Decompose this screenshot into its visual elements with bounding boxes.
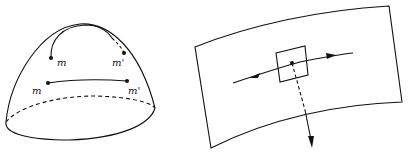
tangent-point [290, 61, 294, 65]
arrow-down-icon [308, 136, 314, 148]
dome-base-back [6, 96, 155, 122]
point-m-upper [49, 56, 53, 60]
point-m-lower [46, 81, 50, 85]
dome-outline [6, 24, 155, 122]
label-m-lower: m [32, 86, 41, 96]
lower-segment [48, 80, 127, 83]
normal-solid [305, 110, 311, 140]
point-m-prime-lower [125, 79, 129, 83]
geodesic-hidden-part [112, 38, 124, 53]
label-m-prime-lower: m' [128, 86, 140, 96]
point-m-prime-upper [122, 51, 126, 55]
dome-base-front [6, 108, 155, 140]
label-m-prime-upper: m' [112, 58, 124, 68]
normal-dashed [292, 63, 305, 110]
diagram-canvas [0, 0, 408, 152]
arrow-left-icon [250, 73, 260, 78]
label-m-upper: m [57, 58, 66, 68]
